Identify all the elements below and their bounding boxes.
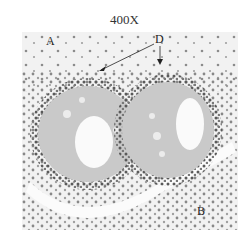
label-a: A xyxy=(46,34,55,49)
label-d: D xyxy=(155,32,164,47)
annotation-arrows xyxy=(0,0,249,239)
arrow-to-left-tubule xyxy=(101,44,154,70)
label-b: B xyxy=(197,204,205,219)
